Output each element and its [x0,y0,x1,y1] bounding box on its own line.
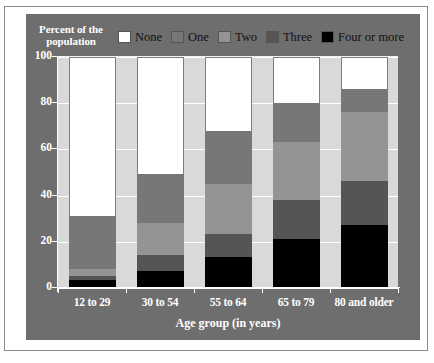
bar-segment [273,142,320,200]
x-axis-line [52,287,400,288]
legend-label: Four or more [338,30,404,45]
y-tick-label: 80 [24,96,52,107]
legend-label: One [188,30,209,45]
bar-slot [58,57,126,287]
bar-slot [330,57,398,287]
bar-segment [137,57,184,174]
legend-item: Four or more [321,30,404,45]
x-axis-category-label: 12 to 29 [58,296,126,308]
bar-segment [341,112,388,181]
bar-segment [69,216,116,269]
x-axis-category-label: 80 and older [330,296,398,308]
bar-segment [205,184,252,235]
stacked-bar[interactable] [273,57,320,287]
stacked-bar[interactable] [341,57,388,287]
legend-label: Two [235,30,257,45]
bar-segment [341,57,388,89]
bar-segment [341,181,388,225]
y-tick-label-wrap: 40 [16,189,52,200]
x-axis-category-label: 55 to 64 [194,296,262,308]
bar-segment [273,200,320,239]
legend-label: None [135,30,162,45]
y-axis-title-line-1: Percent of the [39,23,103,36]
bar-slot [126,57,194,287]
bars-layer [58,57,398,287]
bar-segment [273,239,320,287]
x-tick-mark [398,287,399,293]
y-tick-mark [52,102,58,103]
legend-swatch-icon [218,31,231,43]
y-tick-label-wrap: 20 [16,235,52,246]
x-tick-mark [126,287,127,293]
stacked-bar[interactable] [205,57,252,287]
legend-swatch-icon [171,31,184,43]
bar-segment [137,174,184,222]
bar-segment [69,280,116,287]
bar-segment [69,269,116,276]
legend-swatch-icon [266,31,279,43]
bar-segment [273,57,320,103]
y-tick-label: 0 [24,281,52,292]
y-tick-label: 100 [24,50,52,61]
legend-swatch-icon [321,31,334,43]
y-tick-mark [52,195,58,196]
bar-segment [341,225,388,287]
legend-swatch-icon [118,31,131,43]
x-tick-mark [330,287,331,293]
x-axis-category-label: 65 to 79 [262,296,330,308]
y-axis-title-line-2: population [46,35,96,48]
legend-item: Two [218,30,257,45]
y-tick-mark [52,241,58,242]
bar-segment [137,255,184,271]
y-tick-label-wrap: 100 [16,50,52,61]
y-tick-mark [52,148,58,149]
x-tick-mark [58,287,59,293]
x-tick-mark [262,287,263,293]
bar-segment [205,257,252,287]
y-tick-label-wrap: 0 [16,281,52,292]
x-axis-tick-labels: 12 to 2930 to 5455 to 6465 to 7980 and o… [58,296,398,308]
stacked-bar[interactable] [137,57,184,287]
x-tick-mark [194,287,195,293]
y-tick-label-wrap: 80 [16,96,52,107]
bar-slot [262,57,330,287]
chart-legend: NoneOneTwoThreeFour or more [118,28,404,46]
legend-item: None [118,30,162,45]
legend-item: One [171,30,209,45]
stacked-bar-chart-figure: Percent of the population NoneOneTwoThre… [0,0,434,363]
gridline [58,288,398,289]
plot-area [58,56,398,287]
y-tick-label: 20 [24,235,52,246]
bar-segment [205,234,252,257]
bar-segment [69,57,116,216]
bar-segment [273,103,320,142]
x-axis-category-label: 30 to 54 [126,296,194,308]
bar-segment [137,223,184,255]
bar-segment [205,131,252,184]
bar-segment [205,57,252,131]
legend-label: Three [283,30,312,45]
y-tick-label: 40 [24,189,52,200]
y-tick-label-wrap: 60 [16,142,52,153]
y-tick-mark [52,56,58,57]
bar-segment [137,271,184,287]
legend-item: Three [266,30,312,45]
stacked-bar[interactable] [69,57,116,287]
x-axis-title: Age group (in years) [58,316,398,331]
y-tick-label: 60 [24,142,52,153]
y-axis-line [57,56,58,292]
bar-slot [194,57,262,287]
bar-segment [341,89,388,112]
